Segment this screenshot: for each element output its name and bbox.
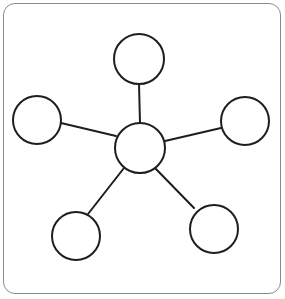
node-left: [13, 96, 61, 144]
node-right: [221, 97, 269, 145]
nodes: [13, 34, 269, 260]
edge-hub-to-node-right: [165, 128, 221, 141]
hub-node: [115, 123, 165, 173]
node-top: [114, 34, 164, 84]
edge-hub-to-node-left: [61, 123, 116, 136]
edge-hub-to-node-top: [139, 84, 140, 123]
star-network-diagram: [0, 0, 285, 299]
edge-hub-to-node-bottom-left: [88, 168, 124, 214]
node-bottom-left: [52, 212, 100, 260]
edge-hub-to-node-bottom-right: [154, 167, 194, 208]
diagram-canvas: [0, 0, 285, 299]
node-bottom-right: [190, 205, 238, 253]
